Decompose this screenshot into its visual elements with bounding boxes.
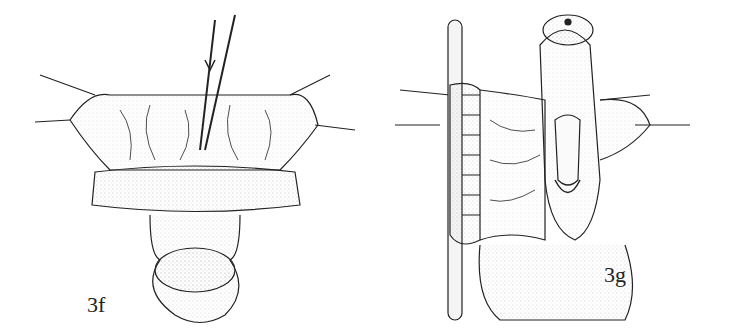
figure-label-3g: 3g xyxy=(604,262,626,288)
figure-3f-drawing xyxy=(35,15,355,323)
surgical-illustrations xyxy=(0,0,737,330)
figure-3g-drawing xyxy=(395,15,690,320)
illustration-canvas: 3f 3g xyxy=(0,0,737,330)
figure-label-3f: 3f xyxy=(87,292,105,318)
